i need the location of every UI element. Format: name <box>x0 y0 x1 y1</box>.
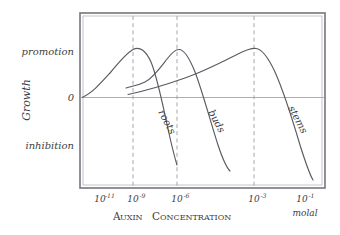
plot-frame <box>80 13 325 188</box>
tick-mantissa: 10 <box>296 194 308 204</box>
peak-gridlines <box>133 16 254 186</box>
tick-exponent: -9 <box>139 192 145 199</box>
plot-frame-outer <box>80 13 325 188</box>
x-axis-title: A UXIN C ONCENTRATION <box>112 210 231 222</box>
curve-label-stems: stems <box>286 104 310 135</box>
y-axis-title: Growth <box>20 79 33 121</box>
x-axis-units: molal <box>292 208 317 218</box>
x-axis-title-rest: UXIN <box>120 213 143 222</box>
figure-page: promotion 0 inhibition Growth roots buds… <box>0 0 340 235</box>
tick-exponent: -11 <box>105 192 115 199</box>
x-axis-title-second-lead: C <box>152 210 160 222</box>
x-axis-title-second-rest: ONCENTRATION <box>160 213 231 222</box>
tick-mantissa: 10 <box>248 194 260 204</box>
auxin-growth-chart: promotion 0 inhibition Growth roots buds… <box>0 0 340 235</box>
y-label-promotion: promotion <box>22 46 74 57</box>
tick-10e-6: 10 -6 <box>171 192 189 205</box>
tick-10e-1: 10 -1 <box>296 192 314 205</box>
y-label-inhibition: inhibition <box>25 140 74 151</box>
curve-roots <box>82 48 177 165</box>
tick-mantissa: 10 <box>127 194 139 204</box>
tick-exponent: -3 <box>260 192 266 199</box>
tick-10e-3: 10 -3 <box>248 192 266 205</box>
y-label-zero: 0 <box>68 92 75 103</box>
curve-stems <box>128 48 313 180</box>
tick-10e-11: 10 -11 <box>94 192 115 205</box>
tick-exponent: -6 <box>183 192 189 199</box>
tick-mantissa: 10 <box>171 194 183 204</box>
tick-10e-9: 10 -9 <box>127 192 145 205</box>
curve-label-buds: buds <box>206 108 227 135</box>
tick-exponent: -1 <box>308 192 314 199</box>
curve-label-roots: roots <box>156 108 178 136</box>
